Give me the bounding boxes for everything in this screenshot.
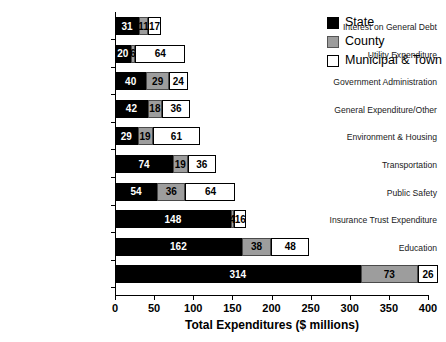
x-axis-tick-label: 100 bbox=[173, 302, 213, 314]
x-axis-tick-label: 200 bbox=[252, 302, 292, 314]
bar-value-label: 40 bbox=[125, 76, 136, 87]
bar-value-label: 73 bbox=[384, 269, 395, 280]
bar-value-label: 48 bbox=[285, 241, 296, 252]
bar-value-label: 31 bbox=[122, 21, 133, 32]
x-axis-tick-label: 150 bbox=[212, 302, 252, 314]
bar-segment-state: 40 bbox=[115, 72, 146, 90]
bar-value-label: 64 bbox=[205, 186, 216, 197]
bar-segment-county: 29 bbox=[146, 72, 169, 90]
bar-segment-state: 54 bbox=[115, 183, 157, 201]
x-axis-tick-label: 0 bbox=[95, 302, 135, 314]
x-axis-tick-label: 50 bbox=[134, 302, 174, 314]
y-axis-tick bbox=[111, 205, 115, 206]
x-axis-tick bbox=[272, 295, 273, 300]
category-label: Government Administration bbox=[325, 77, 437, 87]
bar-value-label: 19 bbox=[140, 131, 151, 142]
bar-value-label: 16 bbox=[235, 214, 246, 225]
plot-area: Interest on General DebtUtility Expendit… bbox=[0, 0, 437, 300]
y-axis-tick bbox=[111, 177, 115, 178]
bar-segment-county: 73 bbox=[361, 265, 418, 283]
y-axis-tick bbox=[111, 232, 115, 233]
x-axis-tick-label: 400 bbox=[408, 302, 446, 314]
bar-segment-state: 162 bbox=[115, 238, 242, 256]
bar-row: 20664 bbox=[115, 45, 185, 63]
bar-value-label: 29 bbox=[121, 131, 132, 142]
bar-row: 291961 bbox=[115, 127, 200, 145]
x-axis-tick-label: 350 bbox=[369, 302, 409, 314]
category-label: General Expenditure/Other bbox=[325, 105, 437, 115]
bar-value-label: 36 bbox=[166, 186, 177, 197]
x-axis-tick bbox=[389, 295, 390, 300]
bar-value-label: 6 bbox=[130, 48, 136, 59]
bar-row: 148416 bbox=[115, 210, 246, 228]
category-label: Transportation bbox=[325, 160, 437, 170]
y-axis-tick bbox=[111, 94, 115, 95]
bar-value-label: 36 bbox=[170, 103, 181, 114]
bar-value-label: 54 bbox=[131, 186, 142, 197]
bar-row: 3147326 bbox=[115, 265, 438, 283]
category-label: Interest on General Debt bbox=[325, 22, 437, 32]
bar-segment-state: 29 bbox=[115, 127, 138, 145]
bar-row: 311117 bbox=[115, 17, 161, 35]
bar-value-label: 148 bbox=[165, 214, 182, 225]
bar-row: 543664 bbox=[115, 183, 235, 201]
bar-segment-municipal-town: 64 bbox=[185, 183, 235, 201]
bar-segment-county: 19 bbox=[173, 155, 188, 173]
bar-segment-state: 42 bbox=[115, 100, 148, 118]
x-axis-tick-label: 250 bbox=[291, 302, 331, 314]
bar-value-label: 314 bbox=[230, 269, 247, 280]
bar-segment-municipal-town: 64 bbox=[135, 45, 185, 63]
bar-value-label: 38 bbox=[251, 241, 262, 252]
bar-segment-municipal-town: 24 bbox=[169, 72, 188, 90]
bar-value-label: 26 bbox=[422, 269, 433, 280]
bar-value-label: 20 bbox=[117, 48, 128, 59]
bar-segment-municipal-town: 48 bbox=[271, 238, 309, 256]
bar-value-label: 162 bbox=[170, 241, 187, 252]
bar-value-label: 24 bbox=[173, 76, 184, 87]
x-axis-tick bbox=[193, 295, 194, 300]
y-axis-tick bbox=[111, 67, 115, 68]
y-axis-tick bbox=[111, 39, 115, 40]
bar-row: 741936 bbox=[115, 155, 216, 173]
bar-value-label: 29 bbox=[152, 76, 163, 87]
category-label: Public Safety bbox=[325, 188, 437, 198]
x-axis-tick bbox=[232, 295, 233, 300]
bar-segment-state: 20 bbox=[115, 45, 131, 63]
bar-value-label: 64 bbox=[155, 48, 166, 59]
bar-segment-state: 314 bbox=[115, 265, 361, 283]
category-label: Education bbox=[325, 243, 437, 253]
x-axis-tick bbox=[154, 295, 155, 300]
bar-segment-county: 36 bbox=[157, 183, 185, 201]
category-label: Utility Expenditure bbox=[325, 50, 437, 60]
x-axis-tick-label: 300 bbox=[330, 302, 370, 314]
bar-segment-municipal-town: 17 bbox=[148, 17, 161, 35]
bar-value-label: 19 bbox=[175, 159, 186, 170]
bar-segment-state: 148 bbox=[115, 210, 231, 228]
bar-value-label: 36 bbox=[196, 159, 207, 170]
x-axis-tick bbox=[115, 295, 116, 300]
bar-segment-municipal-town: 16 bbox=[234, 210, 247, 228]
bar-segment-municipal-town: 36 bbox=[188, 155, 216, 173]
bar-segment-state: 31 bbox=[115, 17, 139, 35]
bar-segment-municipal-town: 36 bbox=[162, 100, 190, 118]
bar-segment-county: 18 bbox=[148, 100, 162, 118]
bar-value-label: 18 bbox=[149, 103, 160, 114]
bar-value-label: 42 bbox=[126, 103, 137, 114]
bar-value-label: 74 bbox=[138, 159, 149, 170]
category-label: Environment & Housing bbox=[325, 132, 437, 142]
y-axis-tick bbox=[111, 122, 115, 123]
category-label: Insurance Trust Expenditure bbox=[325, 215, 437, 225]
bar-segment-state: 74 bbox=[115, 155, 173, 173]
bar-value-label: 11 bbox=[138, 21, 149, 32]
bar-value-label: 61 bbox=[171, 131, 182, 142]
bar-row: 1623848 bbox=[115, 238, 309, 256]
y-axis-tick bbox=[111, 287, 115, 288]
bar-segment-county: 11 bbox=[139, 17, 148, 35]
bar-segment-municipal-town: 26 bbox=[418, 265, 438, 283]
x-axis-tick bbox=[428, 295, 429, 300]
bar-segment-municipal-town: 61 bbox=[153, 127, 201, 145]
y-axis-tick bbox=[111, 260, 115, 261]
y-axis-tick bbox=[111, 149, 115, 150]
bar-segment-county: 38 bbox=[242, 238, 272, 256]
